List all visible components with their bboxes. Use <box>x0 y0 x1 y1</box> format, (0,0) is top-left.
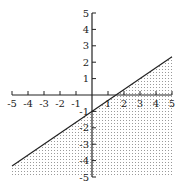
y-tick-label: 4 <box>83 24 89 35</box>
x-tick-label: -3 <box>39 98 49 109</box>
x-tick-label: 5 <box>169 98 175 109</box>
y-tick-label: -5 <box>79 172 89 183</box>
y-tick-label: -3 <box>79 139 89 150</box>
y-tick-label: 5 <box>83 8 89 19</box>
x-tick-label: -5 <box>7 98 17 109</box>
x-tick-label: 3 <box>137 98 143 109</box>
x-tick-label: -4 <box>23 98 33 109</box>
x-tick-label: 4 <box>153 98 159 109</box>
y-tick-label: 2 <box>83 57 89 68</box>
y-tick-label: -1 <box>79 106 89 117</box>
x-tick-label: 1 <box>105 98 111 109</box>
y-tick-label: 3 <box>83 40 89 51</box>
y-tick-label: -4 <box>79 155 89 166</box>
x-tick-label: 2 <box>121 98 127 109</box>
inequality-graph: -5-4-3-2-11234554321-1-2-3-4-5 <box>0 0 184 189</box>
y-tick-label: 1 <box>83 73 89 84</box>
y-tick-label: -2 <box>79 122 89 133</box>
x-tick-label: -2 <box>55 98 65 109</box>
